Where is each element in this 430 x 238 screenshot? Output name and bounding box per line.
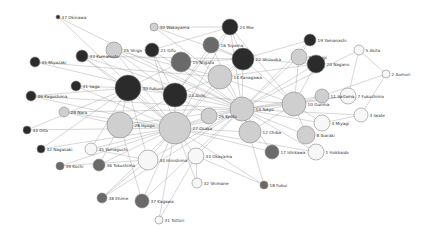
node-label: 29 Nara [71, 110, 88, 115]
graph-node[interactable] [163, 83, 187, 107]
graph-node[interactable] [93, 159, 105, 171]
node-label: 36 Tokushima [107, 163, 136, 168]
node-label: 46 Kagoshima [38, 94, 68, 99]
node-label: 37 Kagawa [151, 199, 175, 204]
graph-node[interactable] [107, 112, 133, 138]
node-label: 11 Saitama [331, 94, 355, 99]
graph-edge [359, 50, 386, 74]
node-label: 20 Nagano [327, 62, 350, 67]
node-label: 23 Aichi [189, 93, 206, 98]
node-label: 16 Toyama [221, 43, 244, 48]
graph-node[interactable] [222, 19, 238, 35]
node-label: 8 Ibaraki [317, 133, 335, 138]
graph-node[interactable] [159, 112, 191, 144]
node-label: 25 Shiga [124, 48, 143, 53]
node-label: 43 Kumamoto [90, 54, 120, 59]
node-label: 4 Miyagi [332, 121, 350, 126]
graph-node[interactable] [115, 75, 141, 101]
graph-node[interactable] [203, 37, 219, 53]
graph-node[interactable] [291, 49, 307, 65]
graph-node[interactable] [56, 162, 64, 170]
graph-node[interactable] [192, 178, 202, 188]
graph-node[interactable] [304, 34, 316, 46]
graph-node[interactable] [145, 43, 159, 57]
graph-node[interactable] [188, 148, 204, 164]
graph-node[interactable] [201, 108, 217, 124]
graph-node[interactable] [260, 181, 268, 189]
node-label: 5 Akita [366, 48, 381, 53]
node-label: 9 Tochigi [309, 55, 327, 60]
node-label: 19 Yamanashi [318, 38, 347, 43]
graph-node[interactable] [308, 144, 324, 160]
node-label: 34 Hiroshima [160, 158, 188, 163]
graph-node[interactable] [150, 23, 158, 31]
graph-node[interactable] [37, 145, 45, 153]
node-label: 38 Ehime [109, 196, 129, 201]
node-label: 12 Chiba [263, 130, 282, 135]
node-label: 35 Yamaguchi [99, 147, 128, 152]
node-label: 10 Gunma [308, 102, 330, 107]
graph-node[interactable] [155, 216, 163, 224]
graph-edge [27, 128, 175, 130]
node-label: 18 Fukui [270, 183, 288, 188]
graph-node[interactable] [59, 107, 69, 117]
node-label: 22 Shizuoka [256, 57, 282, 62]
graph-node[interactable] [382, 70, 390, 78]
graph-edge [58, 17, 242, 109]
node-label: 45 Miyazaki [42, 60, 67, 65]
node-label: 26 Kyoto [219, 114, 238, 119]
node-label: 13 Tokyo [256, 107, 275, 112]
graph-node[interactable] [23, 126, 31, 134]
graph-node[interactable] [239, 121, 261, 143]
node-label: 15 Niigata [193, 60, 215, 65]
node-label: 33 Okayama [206, 154, 233, 159]
graph-node[interactable] [208, 65, 232, 89]
graph-node[interactable] [71, 81, 81, 91]
node-label: 27 Osaka [193, 126, 213, 131]
graph-node[interactable] [354, 108, 368, 122]
node-label: 41 Saga [83, 84, 101, 89]
graph-node[interactable] [30, 57, 40, 67]
node-label: 3 Iwate [370, 113, 386, 118]
node-label: 31 Tottori [165, 218, 185, 223]
node-label: 30 Wakayama [160, 25, 190, 30]
node-label: 2 Aomori [392, 72, 411, 77]
graph-node[interactable] [56, 15, 60, 19]
node-label: 42 Nagasaki [47, 147, 73, 152]
graph-node[interactable] [282, 92, 306, 116]
graph-node[interactable] [297, 126, 315, 144]
node-label: 24 Mie [240, 25, 254, 30]
graph-node[interactable] [232, 48, 254, 70]
node-label: 17 Ishikawa [281, 150, 306, 155]
node-label: 40 Fukuoka [143, 86, 167, 91]
graph-node[interactable] [135, 194, 149, 208]
graph-node[interactable] [138, 150, 158, 170]
graph-node[interactable] [85, 143, 97, 155]
node-layer [23, 15, 390, 224]
node-label: 21 Gifu [161, 48, 177, 53]
graph-node[interactable] [171, 52, 191, 72]
graph-node[interactable] [76, 50, 88, 62]
node-label: 7 Fukushima [358, 94, 385, 99]
network-graph: 1 Hokkaido2 Aomori3 Iwate4 Miyagi5 Akita… [0, 0, 430, 238]
graph-node[interactable] [97, 193, 107, 203]
node-label: 39 Kochi [66, 164, 84, 169]
graph-node[interactable] [265, 145, 279, 159]
graph-node[interactable] [354, 45, 364, 55]
node-label: 14 Kanagawa [234, 75, 263, 80]
node-label: 44 Oita [33, 128, 49, 133]
graph-node[interactable] [26, 91, 36, 101]
graph-node[interactable] [314, 115, 330, 131]
node-label: 32 Shimane [204, 181, 229, 186]
node-label: 47 Okinawa [62, 15, 87, 20]
node-label: 28 Hyogo [135, 123, 156, 128]
node-label: 1 Hokkaido [326, 150, 350, 155]
